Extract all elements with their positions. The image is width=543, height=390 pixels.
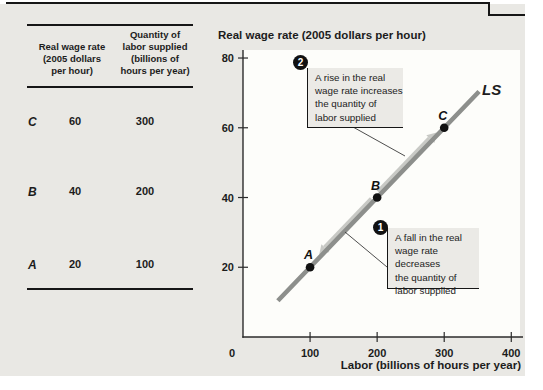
- textbook-figure: Real wage rate (2005 dollars per hour) Q…: [0, 0, 543, 390]
- point-C: [440, 123, 449, 132]
- y-tick-label: 60: [222, 122, 234, 134]
- point-B: [373, 193, 382, 202]
- point-A: [306, 263, 315, 272]
- x-tick-label: 400: [502, 347, 520, 359]
- labor-supply-chart: 010020030040020406080ABCLS: [0, 0, 543, 390]
- y-tick-label: 20: [222, 261, 234, 273]
- y-tick-label: 80: [222, 52, 234, 64]
- y-tick-label: 40: [222, 192, 234, 204]
- x-tick-label: 300: [435, 347, 453, 359]
- x-tick-label: 200: [368, 347, 386, 359]
- curve-label-LS: LS: [482, 81, 501, 98]
- point-label-B: B: [371, 179, 380, 193]
- callout-rise: 2 A rise in the real wage rate increases…: [307, 68, 403, 128]
- callout-number-badge: 2: [293, 55, 308, 70]
- x-tick-label: 100: [301, 347, 319, 359]
- x-axis-label: Labor (billions of hours per year): [280, 359, 521, 371]
- callout-fall-text: A fall in the real wage rate decreases t…: [388, 228, 479, 297]
- callout-fall: 1 A fall in the real wage rate decreases…: [387, 228, 479, 289]
- point-label-C: C: [438, 109, 448, 123]
- x-tick-label: 0: [229, 347, 235, 359]
- callout-rise-text: A rise in the real wage rate increases t…: [308, 68, 403, 124]
- point-label-A: A: [303, 248, 313, 262]
- callout-number-badge: 1: [373, 220, 388, 235]
